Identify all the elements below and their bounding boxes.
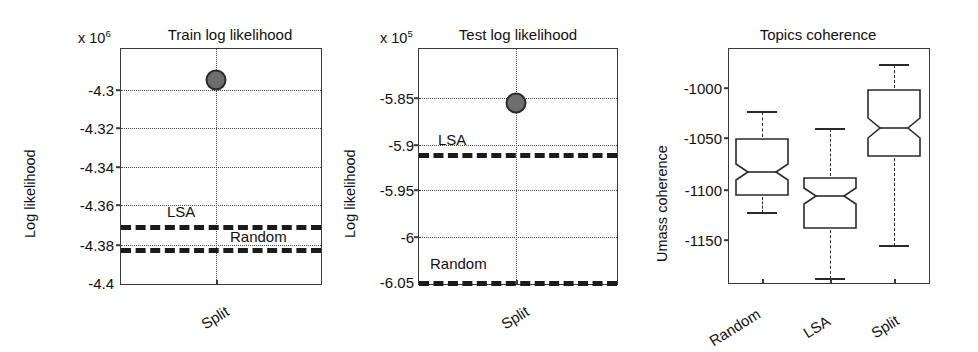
xtick-mark [894,279,896,284]
reference-line-random [121,248,321,253]
reference-label-lsa: LSA [167,203,195,220]
whisker-cap-upper [879,64,909,66]
xtick-label-random: Random [706,305,763,349]
ytick-label: -5.85 [344,90,414,107]
gridline [121,90,321,91]
whisker-cap-upper [815,128,845,130]
whisker-upper [762,112,763,137]
panel-train-title: Train log likelihood [130,26,330,43]
gridline [419,190,617,191]
ytick-label: -1100 [664,182,722,199]
whisker-lower [762,197,763,213]
exponent-prefix: x 10 [78,30,105,46]
data-point-split [506,93,527,114]
xtick-mark [216,280,218,285]
whisker-cap-lower [747,212,777,214]
ytick-label: -4.3 [54,82,114,99]
exponent-prefix: x 10 [380,30,407,46]
data-point-split [206,70,227,91]
xtick-label-split: Split [498,303,532,333]
reference-label-random: Random [230,228,287,245]
panel-test-log-likelihood: Test log likelihood x 105 Log likelihood… [330,0,650,352]
panel-train-log-likelihood: Train log likelihood x 106 Log likelihoo… [0,0,340,352]
reference-label-lsa: LSA [438,131,466,148]
gridline-vertical [516,49,517,284]
gridline [121,128,321,129]
ytick-label: -4.34 [44,159,114,176]
panel-train-exponent: x 106 [78,28,111,46]
xtick-mark [516,280,518,285]
panel-train-ylabel: Log likelihood [22,149,38,238]
whisker-cap-lower [879,245,909,247]
whisker-upper [830,129,831,176]
figure-root: Train log likelihood x 106 Log likelihoo… [0,0,978,352]
xtick-label-split: Split [198,303,232,333]
reference-line-lsa [121,225,321,230]
gridline [121,205,321,206]
whisker-lower [894,158,895,246]
whisker-cap-upper [747,111,777,113]
xtick-mark [830,279,832,284]
ytick-label: -5.9 [354,137,414,154]
gridline [419,237,617,238]
ytick-label: -4.32 [44,120,114,137]
ytick-label: -1150 [664,232,722,249]
panel-topics-coherence: Topics coherence Umass coherence -1000 -… [640,0,978,352]
panel-test-title: Test log likelihood [418,26,618,43]
reference-line-random [419,281,617,286]
panel-test-plot-area [418,48,618,285]
exponent-value: 5 [407,28,412,39]
ytick-label: -4.36 [44,197,114,214]
reference-line-lsa [419,153,617,158]
panel-coherence-title: Topics coherence [718,26,918,43]
ytick-label: -6.05 [344,274,414,291]
ytick-label: -1050 [664,130,722,147]
ytick-label: -1000 [664,80,722,97]
box-notched [734,137,790,197]
whisker-upper [894,65,895,88]
box-notched [802,176,858,230]
panel-test-exponent: x 105 [380,28,413,46]
reference-label-random: Random [430,255,487,272]
xtick-label-lsa: LSA [800,312,833,341]
ytick-label: -6 [364,229,414,246]
gridline [121,245,321,246]
gridline [121,167,321,168]
ytick-label: -4.38 [44,237,114,254]
exponent-value: 6 [105,28,110,39]
ytick-label: -5.95 [344,182,414,199]
whisker-lower [830,230,831,279]
xtick-mark [762,279,764,284]
ytick-label: -4.4 [54,275,114,292]
box-notched [866,88,922,158]
xtick-label-split: Split [868,312,902,342]
